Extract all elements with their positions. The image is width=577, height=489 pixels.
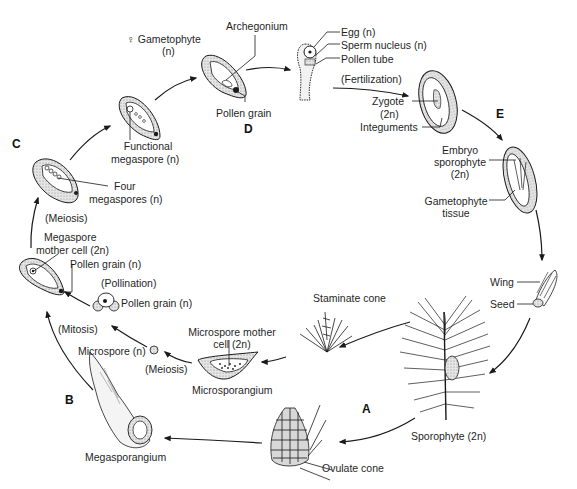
label-microspore: Microspore (n) [78,345,146,357]
arrow-microspore-to-pollen [112,326,147,347]
label-pollen-grain-n-1: Pollen grain (n) [70,258,141,270]
label-pollen-tube: Pollen tube [341,53,394,65]
microspore-cell [150,346,158,354]
arrow-mmc-to-four [31,198,38,248]
label-female-gametophyte: ♀ Gametophyte [127,33,201,45]
label-fertilization: (Fertilization) [341,73,402,85]
arrow-sporophyte-to-ovulate [340,418,415,442]
stage-label-b: B [65,393,74,407]
ovule-megaspore-mother-cell [19,254,72,295]
label-megaspore-mother-cell-1: Megaspore [44,231,97,243]
label-mitosis: (Mitosis) [58,323,98,335]
label-microsporangium: Microsporangium [192,384,273,396]
arrow-pollen-to-megaspore-cell [65,292,90,306]
winged-seed [517,270,557,307]
sporophyte-pine-branch [400,296,490,420]
arrow-staminate-to-microsporangium [262,357,286,362]
ovule-embryo-sporophyte [489,143,543,216]
ovule-functional-megaspore [119,97,160,140]
label-female-gametophyte-ploidy: (n) [162,45,175,57]
label-pollen-grain-d: Pollen grain [216,107,271,119]
label-archegonium: Archegonium [226,20,288,32]
label-functional-megaspore-1: Functional [118,140,178,152]
label-four-megaspores-1: Four [114,180,136,192]
ovule-gametophyte-archegonium [202,35,255,102]
label-meiosis-female: (Meiosis) [45,212,88,224]
label-megasporangium: Megasporangium [85,451,166,463]
label-sperm-nucleus: Sperm nucleus (n) [341,39,427,51]
arrow-gametophyte-to-seed [536,210,542,260]
arrow-seed-to-sporophyte [490,318,530,373]
label-gametophyte-tissue-2: tissue [416,207,496,219]
label-ovulate-cone: Ovulate cone [322,462,384,474]
label-microspore-mother-cell-2: cell (2n) [182,338,282,350]
label-microspore-mother-cell-1: Microspore mother [182,326,282,338]
stage-label-a: A [362,402,371,416]
label-megaspore-mother-cell-2: mother cell (2n) [36,244,109,256]
arrow-sporophyte-to-staminate [340,322,410,347]
label-pollen-grain-n-2: Pollen grain (n) [121,297,192,309]
label-embryo-sporophyte-2: sporophyte [430,156,490,168]
label-sporophyte: Sporophyte (2n) [411,430,486,442]
label-four-megaspores-2: megaspores (n) [89,193,163,205]
arrow-microsporangium-to-microspore [165,352,192,363]
ovule-zygote [412,66,464,137]
stage-label-e: E [496,107,504,121]
arrow-four-to-functional [70,126,110,160]
label-embryo-sporophyte-3: (2n) [430,168,490,180]
label-zygote-ploidy: (2n) [380,108,399,120]
megasporangium-drawing [89,352,152,448]
staminate-cone-branch [300,312,352,352]
stage-label-c: C [12,137,21,151]
label-pollination: (Pollination) [101,277,156,289]
arrow-functional-to-gametophyte [155,78,196,100]
arrow-ovulate-to-megasporangium [165,438,262,443]
stage-label-d: D [244,122,253,136]
label-wing: Wing [490,276,514,288]
label-gametophyte-tissue-1: Gametophyte [416,195,496,207]
label-egg: Egg (n) [341,26,375,38]
label-meiosis-male: (Meiosis) [145,363,188,375]
label-seed: Seed [490,298,515,310]
label-embryo-sporophyte-1: Embryo [430,144,490,156]
pine-life-cycle-diagram: C D E B A ♀ Gametophyte (n) Archegonium … [0,0,577,489]
label-staminate-cone: Staminate cone [313,292,386,304]
label-functional-megaspore-2: megaspore (n) [111,153,179,165]
label-zygote: Zygote [372,95,404,107]
pollen-tube-with-egg [298,32,340,100]
arrow-archegonium-to-egg [246,68,290,71]
pollen-grain-winged [93,293,119,311]
label-integuments: Integuments [360,121,418,133]
